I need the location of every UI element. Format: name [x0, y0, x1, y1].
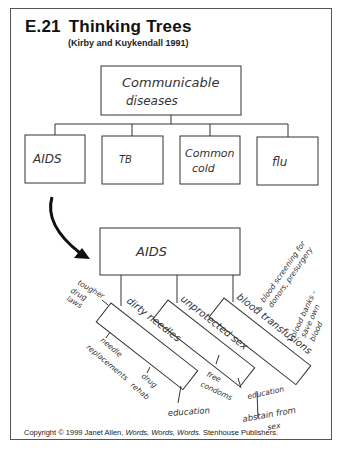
copyright-prefix: Copyright © 1999 Janet Allen, [24, 428, 125, 437]
note-education-1: education [167, 405, 210, 418]
child-label-flu: flu [272, 155, 288, 169]
aids-root-label: AIDS [135, 244, 167, 259]
child-box-flu [257, 137, 318, 185]
thinking-tree-diagram: Communicable diseases AIDS TB Common col… [0, 0, 348, 452]
root-label-line2: diseases [126, 94, 178, 108]
copyright-footer: Copyright © 1999 Janet Allen, Words, Wor… [24, 428, 278, 437]
root-label-line1: Communicable [122, 75, 219, 90]
child-label-cold: cold [192, 162, 216, 175]
child-label-tb: TB [119, 154, 132, 165]
book-title: Words, Words, Words. [125, 428, 200, 437]
root-box-aids [100, 228, 240, 275]
note-abstain: abstain from [242, 405, 297, 424]
child-box-common-cold [180, 136, 240, 184]
child-label-common: Common [185, 147, 235, 160]
publisher: Stenhouse Publishers. [201, 428, 278, 437]
note-education-2: education [247, 384, 286, 401]
child-box-tb [102, 136, 163, 184]
child-label-aids: AIDS [32, 152, 62, 166]
